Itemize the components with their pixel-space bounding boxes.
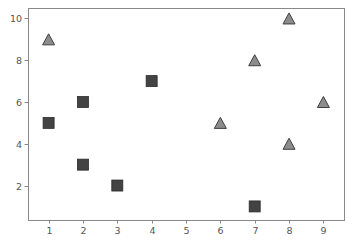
y-tick-label-4: 4 <box>16 139 22 150</box>
x-tick-label-8: 8 <box>286 225 292 236</box>
scatter-plot-figure: 123456789 246810 <box>0 0 353 241</box>
y-tick-label-8: 8 <box>16 55 22 66</box>
point-squares-3-2 <box>112 180 123 191</box>
y-tick-label-10: 10 <box>10 13 22 24</box>
point-squares-2-6 <box>77 96 88 107</box>
point-squares-7-1 <box>249 201 260 212</box>
x-tick-label-2: 2 <box>80 225 86 236</box>
x-tick-label-3: 3 <box>114 225 120 236</box>
scatter-plot-canvas: 123456789 246810 <box>0 0 353 241</box>
point-squares-2-3 <box>77 159 88 170</box>
y-tick-label-6: 6 <box>16 97 22 108</box>
x-tick-label-7: 7 <box>252 225 258 236</box>
x-tick-label-4: 4 <box>149 225 155 236</box>
x-tick-label-9: 9 <box>320 225 326 236</box>
x-tick-label-5: 5 <box>183 225 189 236</box>
y-tick-label-2: 2 <box>16 181 22 192</box>
point-squares-4-7 <box>146 76 157 87</box>
x-tick-label-6: 6 <box>217 225 223 236</box>
point-squares-1-5 <box>43 117 54 128</box>
x-tick-label-1: 1 <box>46 225 52 236</box>
